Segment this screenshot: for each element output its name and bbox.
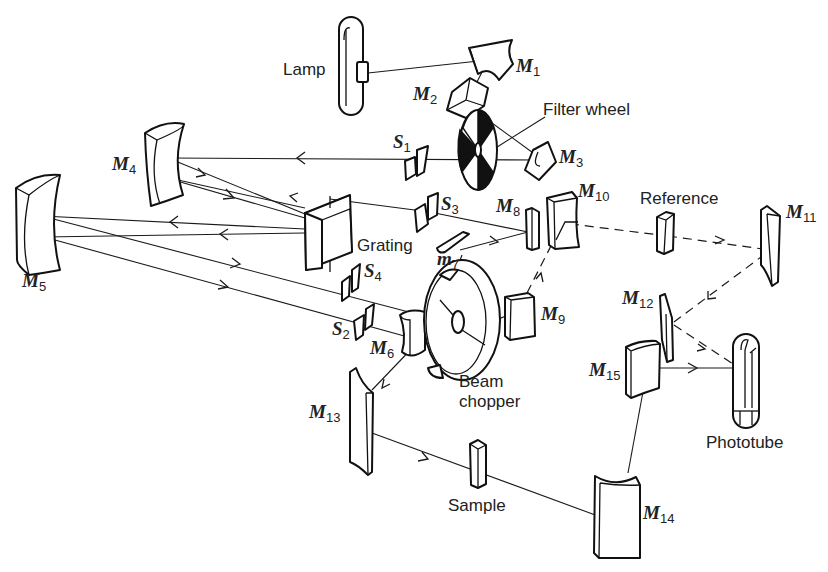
ray-grating-m5-b [44,233,305,237]
label-m10: M10 [577,180,609,204]
labels: Lamp Filter wheel Grating Reference Beam… [21,55,816,526]
grating [305,195,352,272]
label-s4: S4 [364,260,382,284]
reference-beam [470,222,770,364]
label-m12: M12 [621,287,653,311]
label-m14: M14 [642,502,674,526]
mirror-m14 [594,476,640,558]
label-m2: M2 [412,83,437,107]
arrow-icon [297,152,305,164]
mirror-m11 [761,206,780,286]
label-m11: M11 [785,201,816,225]
mirror-m5 [16,175,60,275]
label-beam-chopper-2: chopper [459,392,521,411]
ray-filter-wheel-leader [494,117,545,149]
label-s1: S1 [393,131,411,155]
beam-chopper [424,260,500,380]
dash-m12-phototube [674,325,733,364]
label-m3: M3 [558,146,583,170]
label-s3: S3 [441,193,459,217]
mirror-m12 [660,294,673,362]
label-grating: Grating [357,236,413,255]
arrow-icon [489,236,498,245]
ray-lamp-m1 [368,60,488,73]
label-m9: M9 [540,303,565,327]
filter-wheel [458,110,497,190]
label-m1: M1 [515,55,540,79]
label-sample: Sample [448,496,506,515]
label-m7: m7 [437,248,459,272]
ray-grating-m5-a [42,216,305,229]
slit-s3 [415,193,438,232]
mirror-m3 [525,142,556,180]
lamp [339,17,368,115]
mirror-m9 [505,293,535,340]
mirror-m15 [626,341,660,398]
slit-s2 [354,304,374,340]
label-phototube: Phototube [706,433,784,452]
label-reference: Reference [640,189,718,208]
reference-cell [657,212,674,254]
mirror-m13 [350,368,373,475]
ray-m4-grating-a [168,158,305,214]
ray-m7-m8 [460,232,528,250]
mirror-m1 [469,40,513,80]
arrow-icon [230,258,240,268]
label-m4: M4 [111,153,136,177]
arrow-icon [382,379,390,388]
phototube [733,334,759,428]
label-m6: M6 [369,337,394,361]
label-lamp: Lamp [283,60,326,79]
mirror-m4 [145,123,184,206]
label-m15: M15 [588,359,620,383]
mirror-m8 [526,208,539,250]
label-beam-chopper-1: Beam [459,372,503,391]
ray-grating-m4 [178,180,305,208]
slit-s4 [342,264,360,301]
sample-cell [470,440,486,488]
label-m8: M8 [495,195,520,219]
arrow-icon [290,193,298,202]
mirror-m6 [400,311,425,356]
label-s2: S2 [332,318,350,342]
label-filter-wheel: Filter wheel [543,100,630,119]
spectrophotometer-diagram: Lamp Filter wheel Grating Reference Beam… [0,0,828,572]
ray-m4-grating-b [170,179,305,218]
dash-m11-m12 [674,254,765,322]
arrow-icon [218,280,228,289]
label-m13: M13 [308,401,340,425]
mirror-m10 [547,192,579,249]
